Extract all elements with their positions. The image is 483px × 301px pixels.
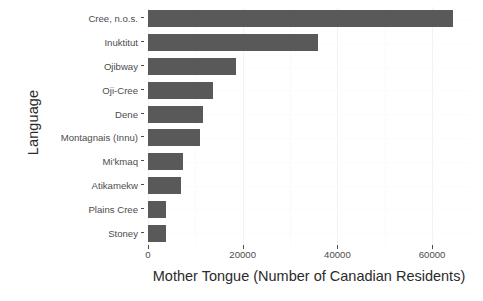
bar-row <box>148 102 470 126</box>
y-axis-tick-labels: Cree, n.o.s.InuktitutOjibwayOji-CreeDene… <box>24 7 144 245</box>
chart-root: Language Cree, n.o.s.InuktitutOjibwayOji… <box>0 0 483 301</box>
x-axis-tick-labels: 0200004000060000 <box>148 249 470 263</box>
bar-row <box>148 197 470 221</box>
plot-panel <box>148 7 470 245</box>
y-axis-tick-6: Mi'kmaq <box>24 150 144 174</box>
bar-row <box>148 126 470 150</box>
y-axis-tick-mark <box>141 136 144 137</box>
bar-1[interactable] <box>148 34 318 51</box>
y-axis-tick-label: Inuktitut <box>104 37 138 48</box>
bar-8[interactable] <box>148 201 166 218</box>
x-axis-title: Mother Tongue (Number of Canadian Reside… <box>148 265 470 287</box>
y-axis-tick-label: Stoney <box>108 228 138 239</box>
bar-3[interactable] <box>148 82 213 99</box>
y-axis-tick-mark <box>141 41 144 42</box>
y-axis-tick-7: Atikamekw <box>24 174 144 198</box>
y-axis-tick-mark <box>141 208 144 209</box>
y-axis-tick-label: Ojibway <box>104 61 138 72</box>
y-axis-tick-mark <box>141 184 144 185</box>
bar-row <box>148 55 470 79</box>
y-axis-tick-mark <box>141 17 144 18</box>
bar-series <box>148 7 470 245</box>
y-axis-tick-label: Oji-Cree <box>102 85 138 96</box>
y-axis-tick-5: Montagnais (Innu) <box>24 126 144 150</box>
y-axis-tick-label: Dene <box>115 109 138 120</box>
y-axis-tick-label: Atikamekw <box>92 180 138 191</box>
bar-row <box>148 31 470 55</box>
bar-row <box>148 221 470 245</box>
y-axis-tick-mark <box>141 65 144 66</box>
bar-0[interactable] <box>148 10 453 27</box>
x-axis-tick-label: 0 <box>145 249 150 260</box>
y-axis-tick-mark <box>141 89 144 90</box>
bar-2[interactable] <box>148 58 236 75</box>
bar-row <box>148 78 470 102</box>
bar-9[interactable] <box>148 225 166 242</box>
y-axis-tick-9: Stoney <box>24 221 144 245</box>
x-axis-tick-label: 20000 <box>229 249 256 260</box>
y-axis-tick-label: Plains Cree <box>88 204 138 215</box>
x-axis-tick-label: 40000 <box>324 249 351 260</box>
y-axis-tick-0: Cree, n.o.s. <box>24 7 144 31</box>
bar-row <box>148 174 470 198</box>
y-axis-tick-mark <box>141 232 144 233</box>
bar-4[interactable] <box>148 106 203 123</box>
y-axis-tick-mark <box>141 113 144 114</box>
bar-5[interactable] <box>148 129 200 146</box>
bar-7[interactable] <box>148 177 181 194</box>
y-axis-tick-2: Ojibway <box>24 55 144 79</box>
y-axis-tick-label: Montagnais (Innu) <box>61 132 138 143</box>
y-axis-tick-label: Cree, n.o.s. <box>88 13 138 24</box>
y-axis-tick-label: Mi'kmaq <box>103 156 138 167</box>
y-axis-tick-mark <box>141 160 144 161</box>
bar-row <box>148 7 470 31</box>
y-axis-tick-1: Inuktitut <box>24 31 144 55</box>
y-axis-tick-4: Dene <box>24 102 144 126</box>
bar-row <box>148 150 470 174</box>
x-axis-tick-label: 60000 <box>419 249 446 260</box>
y-axis-tick-8: Plains Cree <box>24 197 144 221</box>
y-axis-tick-3: Oji-Cree <box>24 78 144 102</box>
bar-6[interactable] <box>148 153 183 170</box>
